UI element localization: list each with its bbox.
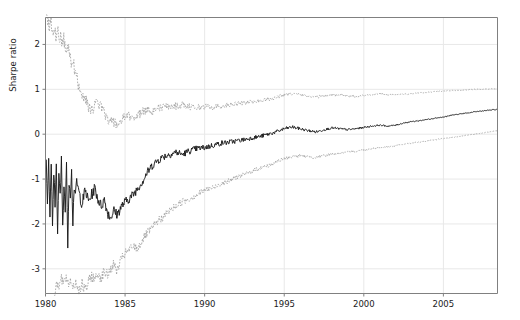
x-tick-label: 1985 [114,299,136,309]
gridlines [46,18,498,294]
y-tick-label: -3 [20,264,40,274]
x-tick-label: 2005 [433,299,455,309]
chart-canvas [0,0,520,320]
y-tick-label: 0 [20,129,40,139]
y-tick-label: 2 [20,39,40,49]
chart-figure: Sharpe ratio 198019851990199520002005 -3… [0,0,520,320]
x-tick-label: 1995 [273,299,295,309]
series-line-0 [46,15,497,128]
data-series-layer [46,15,497,296]
x-tick-label: 1990 [194,299,216,309]
series-line-2 [54,131,497,296]
y-axis-label: Sharpe ratio [8,20,18,110]
axes-spines [43,18,498,297]
y-tick-label: -1 [20,174,40,184]
y-tick-label: -2 [20,219,40,229]
y-tick-label: 1 [20,84,40,94]
x-tick-label: 1980 [35,299,57,309]
x-tick-label: 2000 [353,299,375,309]
